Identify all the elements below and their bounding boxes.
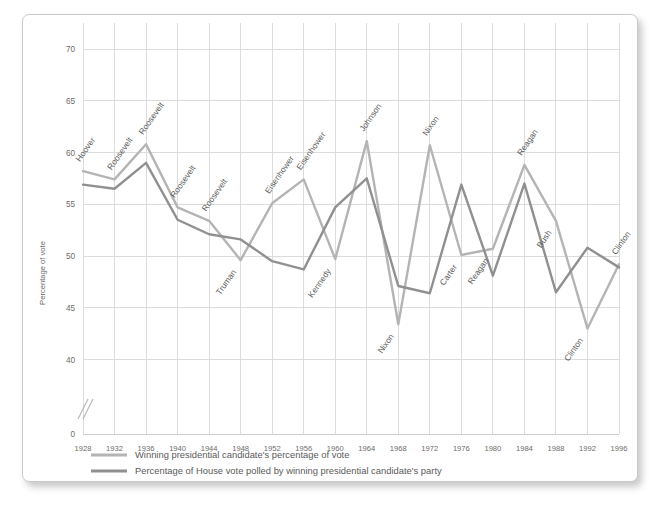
x-tick-label: 1984	[516, 444, 533, 453]
point-annotation: Roosevelt	[168, 163, 198, 200]
x-tick-label: 1928	[75, 444, 92, 453]
legend-label: Percentage of House vote polled by winni…	[135, 465, 442, 476]
x-tick-label: 1988	[547, 444, 564, 453]
y-tick-label: 55	[66, 200, 76, 209]
point-annotation: Johnson	[357, 101, 384, 133]
line-chart-svg: 0404550556065701928193219361940194419481…	[23, 15, 637, 481]
point-annotation: Eisenhower	[294, 130, 327, 172]
point-annotation: Carter	[437, 262, 459, 287]
x-tick-label: 1996	[611, 444, 628, 453]
x-tick-label: 1972	[421, 444, 438, 453]
series-line-1	[83, 163, 619, 293]
x-tick-label: 1992	[579, 444, 596, 453]
chart-plot-area: 0404550556065701928193219361940194419481…	[23, 15, 637, 481]
point-annotation: Clinton	[609, 229, 632, 256]
point-annotation: Nixon	[375, 331, 396, 355]
point-annotation: Roosevelt	[137, 100, 167, 137]
axis-break-mark	[83, 399, 93, 419]
y-tick-label: 0	[70, 430, 75, 439]
point-annotation: Truman	[214, 267, 239, 296]
y-tick-label: 45	[66, 304, 76, 313]
x-tick-label: 1976	[453, 444, 470, 453]
point-annotation: Clinton	[562, 336, 585, 363]
y-axis-title: Percentage of vote	[38, 241, 47, 305]
x-tick-label: 1968	[390, 444, 407, 453]
y-tick-label: 50	[66, 252, 76, 261]
point-annotation: Kennedy	[306, 266, 334, 299]
legend-label: Winning presidential candidate's percent…	[135, 449, 349, 460]
y-tick-label: 65	[66, 97, 76, 106]
chart-card: 0404550556065701928193219361940194419481…	[22, 14, 638, 482]
y-tick-label: 40	[66, 356, 76, 365]
point-annotation: Roosevelt	[105, 135, 135, 172]
x-tick-label: 1980	[484, 444, 501, 453]
x-tick-label: 1964	[358, 444, 375, 453]
point-annotation: Hoover	[73, 135, 97, 163]
y-tick-label: 70	[66, 45, 76, 54]
point-annotation: Reagan	[465, 256, 490, 286]
point-annotation: Roosevelt	[200, 176, 230, 213]
point-annotation: Nixon	[420, 114, 441, 138]
x-tick-label: 1932	[106, 444, 123, 453]
